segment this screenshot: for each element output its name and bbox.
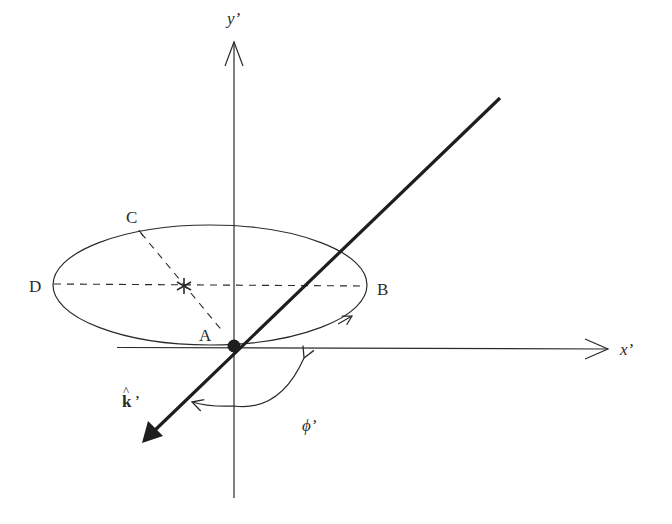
point-a-label: A [199,327,211,344]
orbit-direction-arrow-icon [338,316,352,324]
diagram-graphics [0,0,672,524]
origin-dot [228,340,241,353]
y-axis [225,42,243,498]
phi-angle-arc [192,358,304,407]
y-axis-label: y’ [227,10,240,27]
diagram-canvas: y’ x’ C D B A ^ k’ ϕ’ [0,0,672,524]
point-b-label: B [377,281,388,298]
focus-star-icon [177,278,191,294]
phi-angle-label: ϕ’ [302,417,316,434]
k-hat-vector-label: ^ k’ [122,393,140,410]
x-axis-label: x’ [620,341,633,358]
point-c-label: C [126,209,137,226]
major-axis-dashed [54,284,366,286]
x-axis [117,339,608,359]
line-of-sight-vector [142,98,500,443]
hat-accent: ^ [123,384,129,397]
point-d-label: D [29,278,41,295]
line-c-a-dashed [141,233,224,333]
k-prime: ’ [134,392,140,411]
